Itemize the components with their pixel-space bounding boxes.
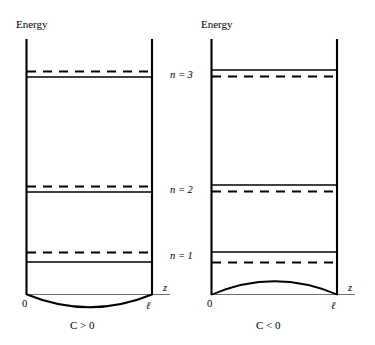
origin-label-left: 0	[22, 298, 27, 309]
energy-axis-label-right: Energy	[201, 18, 233, 30]
level-label-n1: n = 1	[170, 250, 193, 261]
caption-right-panel: C < 0	[256, 319, 281, 331]
panel-left: Energy 0 ℓ z C > 0	[16, 18, 170, 331]
figure-canvas: Energy 0 ℓ z C > 0 n = 3 n = 2 n =	[0, 0, 375, 345]
origin-label-right: 0	[207, 298, 212, 309]
z-axis-label-left: z	[162, 282, 167, 293]
level-label-n2: n = 2	[170, 184, 194, 195]
potential-curve-right	[212, 281, 337, 294]
potential-curve-left	[27, 295, 152, 308]
z-axis-label-right: z	[347, 282, 352, 293]
energy-axis-label-left: Energy	[16, 18, 48, 30]
level-label-n3: n = 3	[170, 69, 193, 80]
energy-level-diagram: Energy 0 ℓ z C > 0 n = 3 n = 2 n =	[0, 0, 375, 345]
width-label-left: ℓ	[146, 300, 151, 311]
level-label-column: n = 3 n = 2 n = 1	[170, 69, 194, 261]
caption-left-panel: C > 0	[70, 319, 95, 331]
panel-right: Energy 0 ℓ z C < 0	[201, 18, 355, 331]
width-label-right: ℓ	[331, 300, 336, 311]
